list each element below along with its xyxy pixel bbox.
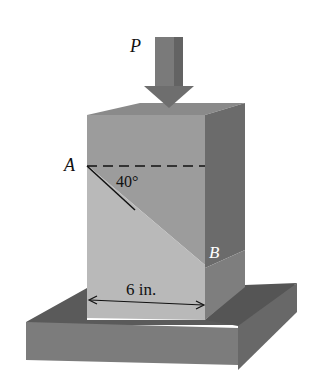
load-arrow <box>144 37 194 108</box>
base-front-face <box>26 322 238 365</box>
point-a-label: A <box>63 155 76 175</box>
point-b-label: B <box>209 243 220 262</box>
width-label: 6 in. <box>126 280 156 299</box>
compression-block-diagram: P A 40° B 6 in. <box>0 0 313 392</box>
arrow-shaft-shade <box>174 37 183 87</box>
block <box>87 103 245 320</box>
load-label: P <box>129 36 141 56</box>
angle-label: 40° <box>116 173 138 190</box>
